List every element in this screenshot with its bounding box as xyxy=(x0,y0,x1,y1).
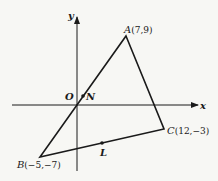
vertex-a-name: A xyxy=(123,24,131,35)
point-n-label: N xyxy=(85,91,96,102)
point-l-label: L xyxy=(99,147,107,158)
vertex-c-coords: (12,−3) xyxy=(175,126,210,136)
y-axis-label: y xyxy=(67,10,75,21)
vertex-c-label: C(12,−3) xyxy=(167,125,209,136)
triangle-diagram: y x O A(7,9) C(12,−3) B(−5,−7) N L xyxy=(0,0,218,181)
triangle-abc xyxy=(40,36,164,157)
point-n xyxy=(81,94,85,98)
vertex-b-coords: (−5,−7) xyxy=(24,160,60,170)
point-l xyxy=(100,141,104,145)
origin-label: O xyxy=(65,91,74,102)
vertex-a-coords: (7,9) xyxy=(131,25,152,35)
vertex-a-label: A(7,9) xyxy=(123,24,153,35)
x-axis-label: x xyxy=(199,100,207,111)
vertex-b-label: B(−5,−7) xyxy=(16,159,61,170)
vertex-b-name: B xyxy=(16,159,24,170)
diagram-svg: y x O A(7,9) C(12,−3) B(−5,−7) N L xyxy=(0,0,218,181)
